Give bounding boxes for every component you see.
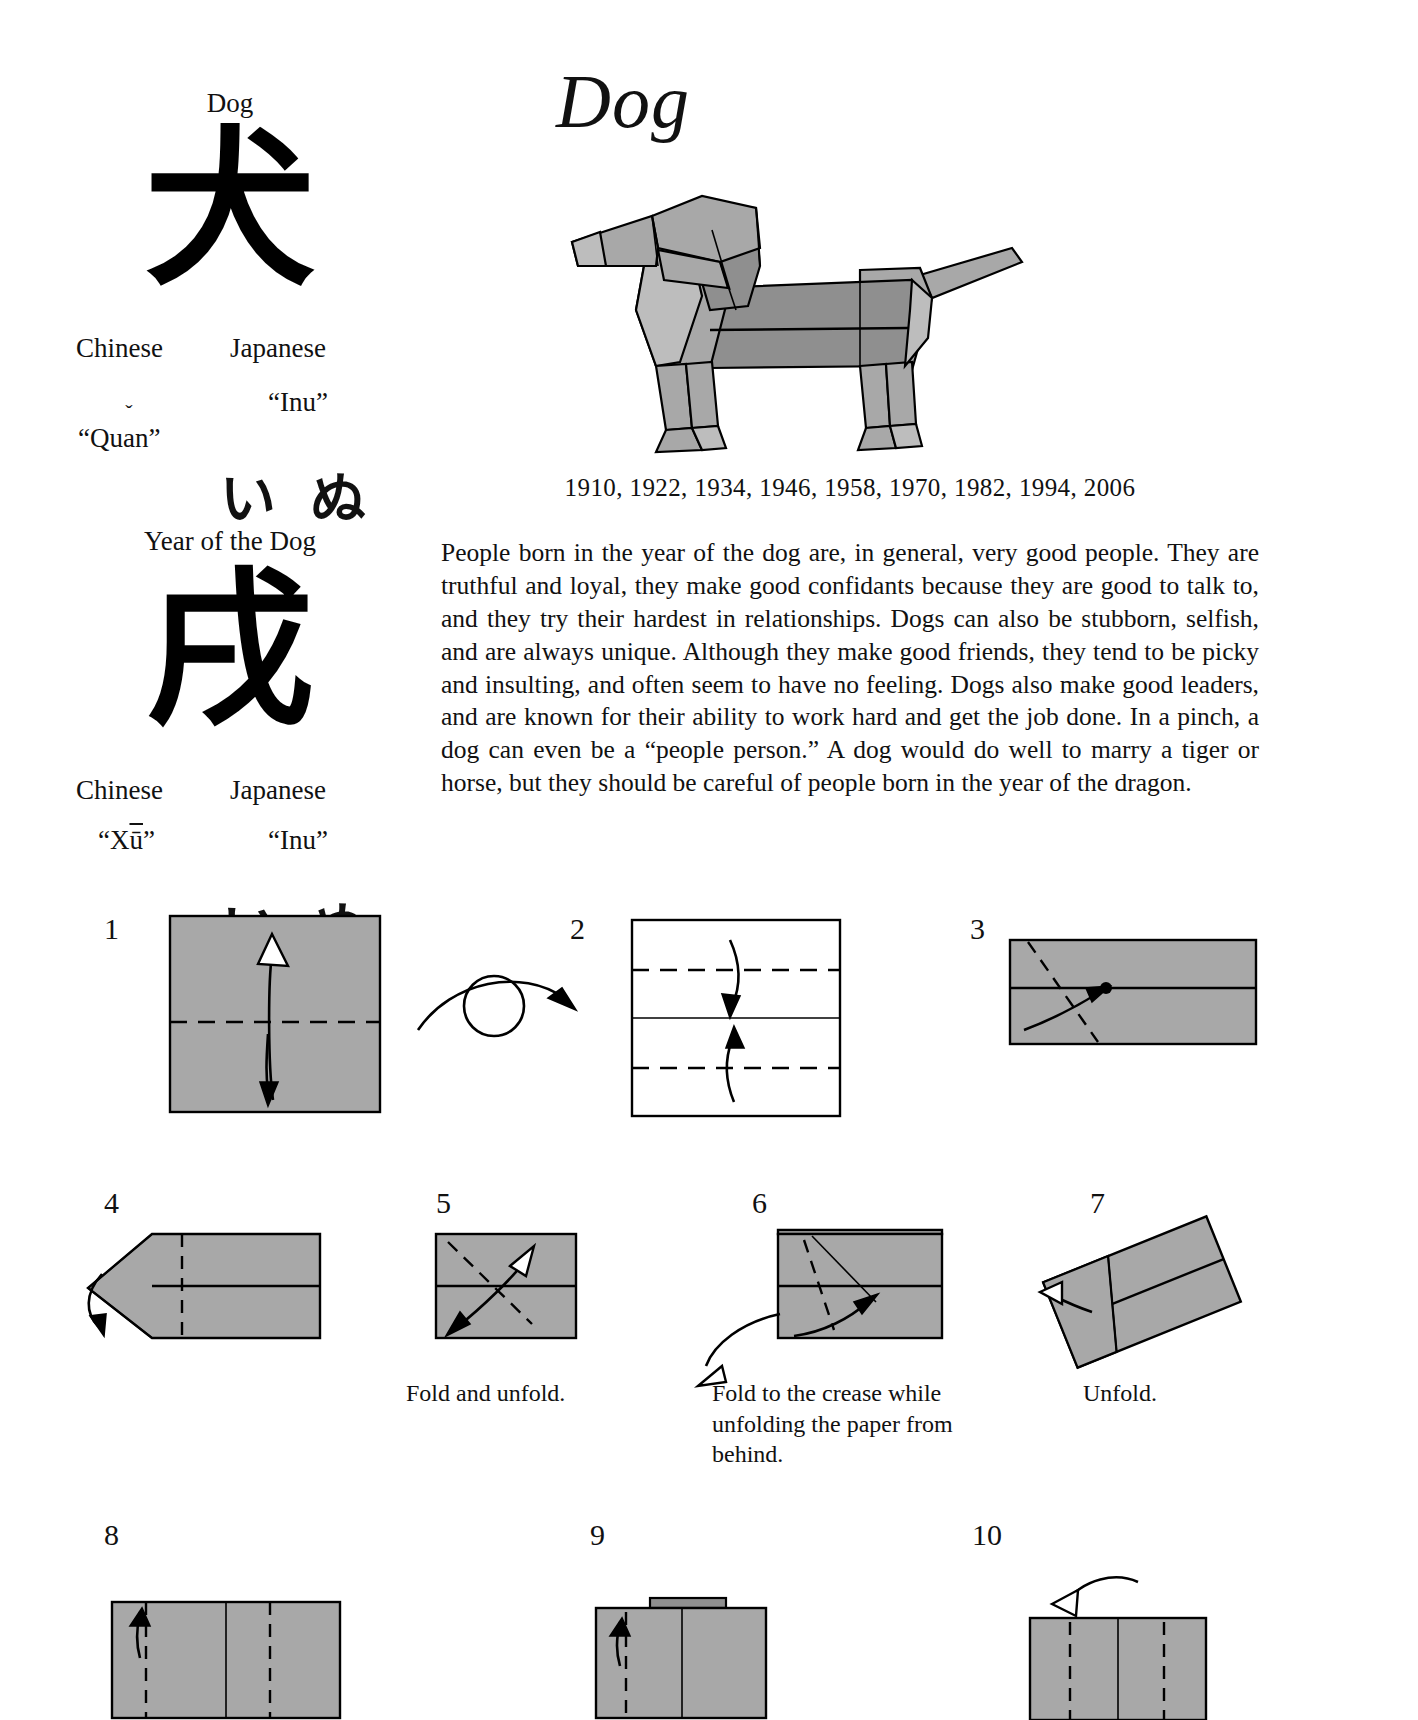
animal-japanese-label: Japanese bbox=[230, 333, 326, 364]
year-japanese-label: Japanese bbox=[230, 775, 326, 806]
year-chinese-label: Chinese bbox=[76, 775, 163, 806]
step-number-6: 6 bbox=[752, 1186, 767, 1220]
macron-vowel: ū bbox=[129, 825, 143, 855]
step-caption-5: Fold and unfold. bbox=[406, 1378, 666, 1409]
step-diagram-5 bbox=[434, 1232, 578, 1350]
step-number-2: 2 bbox=[570, 912, 585, 946]
origami-instruction-page: Dog 犬 Chinese Japanese “Inu” “Quˇan” い ぬ… bbox=[0, 0, 1418, 1720]
year-kanji-xu: 戌 bbox=[60, 567, 400, 757]
caron-mark: ˇ bbox=[125, 402, 132, 424]
animal-kanji-dog: 犬 bbox=[60, 125, 400, 315]
step-diagram-8 bbox=[110, 1600, 342, 1720]
animal-kana-i: い bbox=[220, 471, 276, 527]
step-diagram-1 bbox=[168, 914, 382, 1114]
step-number-4: 4 bbox=[104, 1186, 119, 1220]
step-number-9: 9 bbox=[590, 1518, 605, 1552]
step-number-8: 8 bbox=[104, 1518, 119, 1552]
page-heading: Dog bbox=[556, 58, 690, 145]
animal-chinese-label: Chinese bbox=[76, 333, 163, 364]
animal-japanese-romanization: “Inu” bbox=[268, 387, 328, 418]
zodiac-description: People born in the year of the dog are, … bbox=[441, 537, 1259, 800]
romanization-suffix: ” bbox=[143, 825, 155, 855]
year-japanese-romanization: “Inu” bbox=[268, 825, 328, 856]
year-chinese-romanization: “Xū” bbox=[98, 825, 155, 856]
step-diagram-7 bbox=[1032, 1220, 1252, 1370]
step-diagram-4 bbox=[74, 1232, 324, 1350]
step-diagram-3 bbox=[1008, 938, 1258, 1048]
origami-dog-illustration bbox=[560, 170, 1060, 460]
step-diagram-10 bbox=[1008, 1560, 1228, 1720]
animal-chinese-romanization: “Quˇan” bbox=[78, 423, 160, 454]
step-number-1: 1 bbox=[104, 912, 119, 946]
zodiac-years: 1910, 1922, 1934, 1946, 1958, 1970, 1982… bbox=[435, 474, 1265, 502]
caron-base: a bbox=[123, 423, 135, 453]
romanization-prefix: “X bbox=[98, 825, 129, 855]
step-number-7: 7 bbox=[1090, 1186, 1105, 1220]
step-caption-6: Fold to the crease while unfolding the p… bbox=[712, 1378, 962, 1470]
romanization-suffix: n” bbox=[135, 423, 160, 453]
year-block: Year of the Dog 戌 Chinese Japanese “Xū” … bbox=[60, 526, 400, 971]
caron-vowel: ˇa bbox=[123, 423, 135, 454]
step-caption-7: Unfold. bbox=[1010, 1378, 1230, 1409]
step-number-5: 5 bbox=[436, 1186, 451, 1220]
step-number-10: 10 bbox=[972, 1518, 1002, 1552]
turn-over-symbol bbox=[412, 962, 588, 1042]
step-diagram-9 bbox=[586, 1596, 776, 1720]
step-diagram-2 bbox=[630, 918, 842, 1118]
step-number-3: 3 bbox=[970, 912, 985, 946]
romanization-prefix: “Qu bbox=[78, 423, 123, 453]
animal-block: Dog 犬 Chinese Japanese “Inu” “Quˇan” い ぬ bbox=[60, 88, 400, 541]
animal-kana-nu: ぬ bbox=[310, 471, 366, 527]
